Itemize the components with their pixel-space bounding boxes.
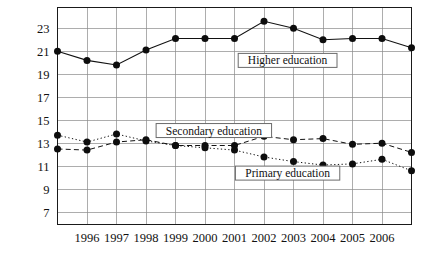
data-point-marker	[290, 25, 297, 32]
x-axis-tick-label: 2000	[193, 231, 218, 245]
y-axis-tick-label: 9	[43, 183, 49, 197]
annotation-primary-education: Primary education	[235, 166, 339, 180]
y-axis-tick-label: 11	[37, 160, 49, 174]
data-point-marker	[202, 35, 209, 42]
data-point-marker	[349, 35, 356, 42]
data-point-marker	[408, 149, 415, 156]
annotation-secondary-education: Secondary education	[156, 124, 271, 138]
data-point-marker	[261, 18, 268, 25]
data-point-marker	[290, 158, 297, 165]
data-point-marker	[84, 147, 91, 154]
y-axis-tick-label: 7	[43, 206, 49, 220]
data-point-marker	[320, 36, 327, 43]
y-axis-tick-label: 13	[37, 137, 50, 151]
x-axis-tick-label: 2005	[340, 231, 365, 245]
x-axis-tick-label: 2006	[370, 231, 395, 245]
data-point-marker	[320, 135, 327, 142]
data-point-marker	[231, 147, 238, 154]
data-point-marker	[290, 136, 297, 143]
x-axis-tick-label: 2003	[281, 231, 306, 245]
data-point-marker	[143, 47, 150, 54]
data-point-marker	[408, 44, 415, 51]
data-point-marker	[231, 35, 238, 42]
data-point-marker	[54, 48, 61, 55]
x-axis-tick-labels: 1996199719981999200020012002200320042005…	[75, 231, 395, 245]
data-point-marker	[113, 62, 120, 69]
x-axis-tick-label: 1999	[163, 231, 188, 245]
y-axis-tick-label: 23	[37, 22, 50, 36]
x-axis-tick-label: 2001	[222, 231, 247, 245]
x-axis-tick-label: 2002	[252, 231, 277, 245]
line-chart: 2321191715131197 19961997199819992000200…	[0, 0, 431, 255]
data-point-marker	[54, 145, 61, 152]
data-point-marker	[172, 35, 179, 42]
data-point-marker	[113, 131, 120, 138]
data-point-marker	[113, 139, 120, 146]
x-axis-tick-label: 1997	[104, 231, 129, 245]
data-point-marker	[172, 142, 179, 149]
annotation-label: Primary education	[245, 167, 330, 180]
data-point-marker	[379, 156, 386, 163]
annotation-label: Higher education	[248, 54, 328, 67]
y-axis-tick-label: 21	[37, 45, 50, 59]
y-axis-tick-label: 15	[37, 114, 50, 128]
x-axis-tick-label: 2004	[311, 231, 337, 245]
data-point-marker	[143, 137, 150, 144]
x-axis-tick-label: 1996	[75, 231, 100, 245]
data-point-marker	[84, 139, 91, 146]
y-axis-tick-label: 17	[37, 91, 50, 105]
data-point-marker	[202, 144, 209, 151]
y-axis-tick-label: 19	[37, 68, 50, 82]
annotation-label: Secondary education	[166, 125, 262, 138]
annotation-higher-education: Higher education	[238, 53, 337, 67]
data-point-marker	[349, 141, 356, 148]
data-point-marker	[84, 57, 91, 64]
data-point-marker	[379, 35, 386, 42]
x-axis-tick-label: 1998	[134, 231, 159, 245]
data-point-marker	[54, 132, 61, 139]
chart-canvas: 2321191715131197 19961997199819992000200…	[0, 0, 431, 255]
data-point-marker	[349, 160, 356, 167]
data-point-marker	[408, 167, 415, 174]
data-point-marker	[261, 154, 268, 161]
data-point-marker	[379, 140, 386, 147]
